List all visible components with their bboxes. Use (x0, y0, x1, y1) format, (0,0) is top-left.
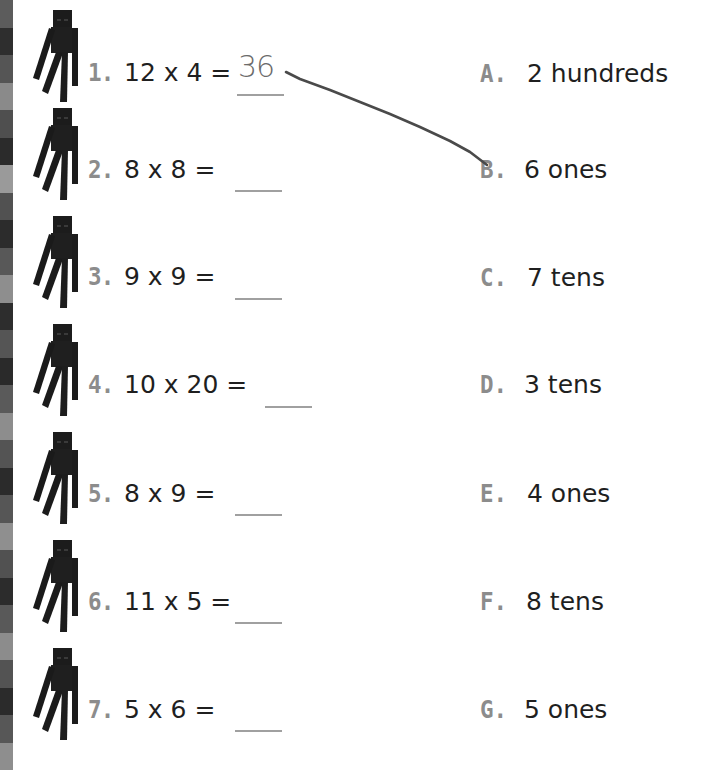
enderman-icon (32, 324, 82, 416)
strip-block (0, 743, 13, 770)
strip-block (0, 578, 13, 606)
strip-block (0, 165, 13, 193)
strip-block (0, 385, 13, 413)
strip-block (0, 468, 13, 496)
strip-block (0, 303, 13, 331)
strip-block (0, 523, 13, 551)
problem-number: 2. (88, 155, 113, 185)
choice-text: 3 tens (524, 370, 602, 400)
enderman-icon (32, 216, 82, 308)
choice-letter: A. (480, 59, 507, 89)
answer-value[interactable]: 36 (238, 52, 274, 82)
choice-text: 2 hundreds (527, 59, 668, 89)
problem-number: 7. (88, 695, 113, 725)
answer-line[interactable] (237, 94, 284, 96)
choice-letter: G. (480, 695, 507, 725)
strip-block (0, 220, 13, 248)
problem-number: 1. (88, 58, 113, 88)
strip-block (0, 495, 13, 523)
strip-block (0, 358, 13, 386)
problem-equation: 8 x 8 = (124, 155, 215, 185)
strip-block (0, 550, 13, 578)
strip-block (0, 605, 13, 633)
strip-block (0, 688, 13, 716)
strip-block (0, 83, 13, 111)
choice-text: 5 ones (524, 695, 607, 725)
choice-text: 7 tens (527, 263, 605, 293)
enderman-icon (32, 648, 82, 740)
strip-block (0, 110, 13, 138)
strip-block (0, 660, 13, 688)
choice-letter: C. (480, 263, 507, 293)
answer-line[interactable] (235, 622, 282, 624)
answer-line[interactable] (235, 298, 282, 300)
enderman-icon (32, 10, 82, 102)
strip-block (0, 330, 13, 358)
strip-block (0, 28, 13, 56)
problem-equation: 11 x 5 = (124, 587, 231, 617)
enderman-icon (32, 108, 82, 200)
choice-text: 4 ones (527, 479, 610, 509)
strip-block (0, 248, 13, 276)
choice-letter: F. (480, 587, 507, 617)
answer-line[interactable] (265, 406, 312, 408)
strip-block (0, 440, 13, 468)
strip-block (0, 413, 13, 441)
problem-equation: 12 x 4 = (124, 58, 231, 88)
answer-line[interactable] (235, 730, 282, 732)
choice-letter: E. (480, 479, 507, 509)
strip-block (0, 55, 13, 83)
strip-block (0, 275, 13, 303)
problem-number: 3. (88, 262, 113, 292)
strip-block (0, 715, 13, 743)
problem-equation: 5 x 6 = (124, 695, 215, 725)
answer-line[interactable] (235, 190, 282, 192)
strip-block (0, 633, 13, 661)
choice-text: 6 ones (524, 155, 607, 185)
enderman-icon (32, 432, 82, 524)
choice-text: 8 tens (526, 587, 604, 617)
choice-letter: B. (480, 155, 507, 185)
problem-equation: 8 x 9 = (124, 479, 215, 509)
decorative-block-strip (0, 0, 13, 769)
problem-equation: 10 x 20 = (124, 370, 247, 400)
problem-number: 5. (88, 479, 113, 509)
choice-letter: D. (480, 370, 507, 400)
problem-number: 6. (88, 587, 113, 617)
problem-number: 4. (88, 370, 113, 400)
strip-block (0, 138, 13, 166)
problem-equation: 9 x 9 = (124, 262, 215, 292)
strip-block (0, 193, 13, 221)
strip-block (0, 0, 13, 28)
answer-line[interactable] (235, 514, 282, 516)
enderman-icon (32, 540, 82, 632)
